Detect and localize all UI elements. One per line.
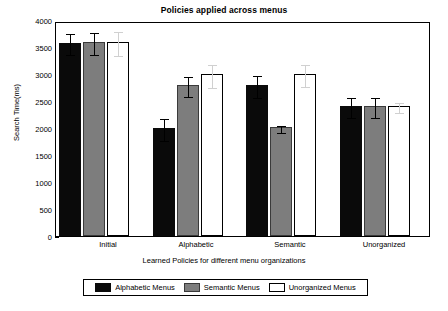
x-tick-label-unorganized: Unorganized <box>344 240 424 249</box>
chart-figure: Policies applied across menus 0 500 1000… <box>0 0 448 311</box>
error-bar-cap <box>66 55 75 56</box>
bar-semantic-white <box>294 74 316 236</box>
error-bar-cap <box>301 65 310 66</box>
legend-item-alphabetic: Alphabetic Menus <box>95 283 175 292</box>
error-bar <box>399 103 400 113</box>
error-bar-cap <box>253 98 262 99</box>
error-bar-cap <box>184 77 193 78</box>
legend-label: Semantic Menus <box>204 283 260 292</box>
legend-swatch-icon <box>95 283 111 292</box>
legend-item-unorganized: Unorganized Menus <box>269 283 356 292</box>
error-bar-cap <box>253 76 262 77</box>
y-tick-label-1000: 1000 <box>12 180 52 188</box>
x-tick-label-semantic: Semantic <box>250 240 330 249</box>
chart-legend: Alphabetic Menus Semantic Menus Unorgani… <box>83 279 368 296</box>
error-bar-cap <box>208 88 217 89</box>
x-tick-label-alphabetic: Alphabetic <box>156 240 236 249</box>
error-bar <box>164 119 165 142</box>
bar-initial-black <box>59 43 81 237</box>
error-bar-cap <box>90 55 99 56</box>
error-bar-cap <box>114 32 123 33</box>
bar-alphabetic-white <box>201 74 223 236</box>
error-bar <box>257 76 258 98</box>
legend-label: Alphabetic Menus <box>115 283 175 292</box>
error-bar <box>188 77 189 97</box>
legend-swatch-icon <box>184 283 200 292</box>
bar-unorganized-black <box>340 106 362 236</box>
error-bar <box>94 33 95 55</box>
error-bar-cap <box>114 56 123 57</box>
y-axis-tick <box>55 237 59 238</box>
error-bar <box>212 65 213 88</box>
bar-initial-gray <box>83 42 105 236</box>
error-bar-cap <box>347 98 356 99</box>
error-bar <box>118 32 119 55</box>
legend-swatch-icon <box>269 283 285 292</box>
bar-alphabetic-gray <box>177 85 199 236</box>
error-bar-cap <box>160 141 169 142</box>
y-tick-label-4000: 4000 <box>12 18 52 26</box>
y-tick-label-500: 500 <box>12 207 52 215</box>
error-bar-cap <box>395 113 404 114</box>
legend-item-semantic: Semantic Menus <box>184 283 260 292</box>
bar-semantic-gray <box>270 127 292 236</box>
x-axis-label: Learned Policies for different menu orga… <box>0 256 448 265</box>
error-bar <box>375 98 376 118</box>
bar-semantic-black <box>246 85 268 236</box>
error-bar-cap <box>90 33 99 34</box>
error-bar-cap <box>66 34 75 35</box>
bar-initial-white <box>107 42 129 236</box>
error-bar <box>70 34 71 56</box>
error-bar-cap <box>301 87 310 88</box>
error-bar-cap <box>277 126 286 127</box>
error-bar-cap <box>277 133 286 134</box>
bar-unorganized-white <box>388 106 410 236</box>
chart-title: Policies applied across menus <box>0 5 448 15</box>
error-bar-cap <box>395 103 404 104</box>
error-bar-cap <box>371 98 380 99</box>
error-bar-cap <box>160 119 169 120</box>
y-axis-label: Search Time(ms) <box>12 53 21 173</box>
bar-alphabetic-black <box>153 128 175 236</box>
bar-unorganized-gray <box>364 106 386 236</box>
error-bar-cap <box>184 97 193 98</box>
bars-container <box>56 23 429 236</box>
error-bar-cap <box>208 65 217 66</box>
error-bar <box>305 65 306 87</box>
y-tick-label-0: 0 <box>12 234 52 242</box>
x-tick-label-initial: Initial <box>68 240 148 249</box>
error-bar <box>351 98 352 117</box>
legend-label: Unorganized Menus <box>289 283 356 292</box>
plot-area <box>55 22 430 237</box>
error-bar-cap <box>347 118 356 119</box>
error-bar-cap <box>371 118 380 119</box>
